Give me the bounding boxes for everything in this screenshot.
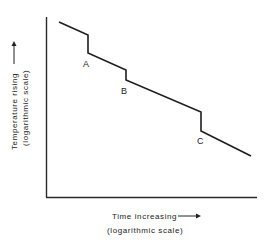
x-axis-label: Time increasing (logarithmic scale) — [107, 212, 201, 235]
arrow-up-icon-head — [12, 41, 17, 46]
point-label-b: B — [121, 86, 127, 96]
arrow-right-icon-head — [196, 214, 201, 219]
point-labels: ABC — [83, 59, 204, 146]
y-axis-label: Temperature rising (logarithmic scale) — [10, 41, 30, 150]
point-label-c: C — [197, 136, 204, 146]
y-axis-title: Temperature rising — [10, 73, 19, 150]
stepped-curve — [59, 22, 251, 156]
x-axis-title: Time increasing — [112, 212, 177, 221]
y-axis-subtitle: (logarithmic scale) — [21, 70, 30, 146]
x-axis-subtitle: (logarithmic scale) — [107, 226, 183, 235]
point-label-a: A — [83, 59, 89, 69]
chart: ABC Temperature rising (logarithmic scal… — [0, 0, 268, 248]
